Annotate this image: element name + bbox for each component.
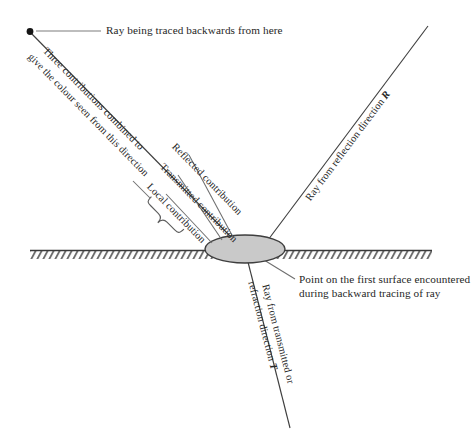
hit-point-label-line1: Point on the first surface encountered xyxy=(299,272,470,286)
hit-point-leader-line xyxy=(264,260,295,279)
hit-point-label-line2: during backward tracing of ray xyxy=(299,286,470,300)
eye-dot-icon xyxy=(27,28,34,35)
reflection-ray-line xyxy=(268,26,428,240)
eye-ray-label: Ray being traced backwards from here xyxy=(106,24,283,37)
ray-tracing-diagram: Ray being traced backwards from here Thr… xyxy=(0,0,474,439)
surface-hit-ellipse xyxy=(205,235,285,263)
diagram-canvas xyxy=(0,0,474,439)
hit-point-label: Point on the first surface encountered d… xyxy=(299,272,470,300)
